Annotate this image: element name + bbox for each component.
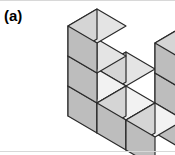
- isometric-cube-stack: [0, 0, 175, 155]
- bottom-divider-rule: [0, 151, 175, 152]
- figure-panel: (a): [0, 0, 175, 155]
